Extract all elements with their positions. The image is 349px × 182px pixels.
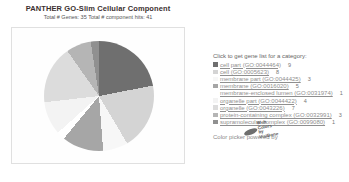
category-color-chip (213, 77, 218, 82)
legend-row: membrane (GO:0016020) 5 (213, 83, 347, 90)
category-gene-list-link[interactable]: protein-containing complex (GO:0032991) (220, 112, 332, 118)
visibone-swoosh-icon (243, 127, 258, 136)
legend-heading: Click to get gene list for a category: (213, 53, 347, 59)
legend-row: membrane part (GO:0044425) 3 (213, 75, 347, 82)
category-color-chip (213, 91, 218, 96)
legend-row: cell (GO:0005623) 8 (213, 68, 347, 75)
category-hit-count: 1 (340, 90, 343, 96)
category-hit-count: 3 (308, 76, 311, 82)
category-hit-count: 8 (276, 69, 279, 75)
category-hit-count: 7 (292, 105, 295, 111)
category-gene-list-link[interactable]: membrane-enclosed lumen (GO:0031974) (220, 90, 333, 96)
legend-rows: cell part (GO:0044464) 9 cell (GO:000562… (213, 61, 347, 126)
legend-row: supramolecular complex (GO:0099080) 1 (213, 119, 347, 126)
panther-pie-chart-page: PANTHER GO-Slim Cellular Component Total… (0, 0, 349, 182)
category-color-chip (213, 105, 218, 110)
category-gene-list-link[interactable]: cell (GO:0005623) (220, 69, 269, 75)
category-gene-list-link[interactable]: organelle part (GO:0044422) (220, 98, 297, 104)
category-color-chip (213, 70, 218, 75)
visibone-logo-text: Web Colors by VisiBone (257, 118, 280, 140)
category-hit-count: 3 (339, 112, 342, 118)
chart-title: PANTHER GO-Slim Cellular Component (11, 4, 185, 13)
legend-row: organelle part (GO:0044422) 4 (213, 97, 347, 104)
category-hit-count: 1 (332, 119, 335, 125)
category-color-chip (213, 113, 218, 118)
category-color-chip (213, 98, 218, 103)
category-gene-list-link[interactable]: cell part (GO:0044464) (220, 62, 281, 68)
legend-row: cell part (GO:0044464) 9 (213, 61, 347, 68)
legend-row: protein-containing complex (GO:0032991) … (213, 111, 347, 118)
category-hit-count: 5 (296, 83, 299, 89)
category-gene-list-link[interactable]: membrane part (GO:0044425) (220, 76, 301, 82)
category-color-chip (213, 62, 218, 67)
pie-chart-panel (11, 27, 185, 164)
legend-row: membrane-enclosed lumen (GO:0031974) 1 (213, 90, 347, 97)
category-gene-list-link[interactable]: organelle (GO:0043226) (220, 105, 285, 111)
chart-subtitle: Total # Genes: 35 Total # component hits… (11, 14, 185, 20)
category-color-chip (213, 84, 218, 89)
legend-row: organelle (GO:0043226) 7 (213, 104, 347, 111)
category-hit-count: 9 (288, 62, 291, 68)
category-color-chip (213, 120, 218, 125)
pie-chart (44, 41, 154, 151)
category-gene-list-link[interactable]: membrane (GO:0016020) (220, 83, 289, 89)
category-legend: Click to get gene list for a category: c… (213, 53, 347, 126)
category-hit-count: 4 (304, 98, 307, 104)
